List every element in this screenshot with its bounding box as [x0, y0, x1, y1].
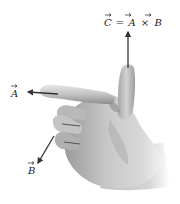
label-b-group: B: [27, 162, 35, 177]
label-b: B: [27, 165, 35, 176]
label-c-equation: C = A × B: [104, 14, 162, 29]
svg-text:C = A ×: C = A × B: [104, 17, 162, 28]
vector-b: [38, 136, 54, 163]
label-a-group: A: [10, 85, 18, 100]
hand-illustration: [40, 64, 170, 190]
label-c: C: [104, 17, 112, 28]
right-hand-rule-diagram: C = A × B A B: [0, 0, 180, 204]
label-cross: ×: [141, 17, 149, 28]
label-equals: =: [116, 17, 124, 28]
label-b-in-eq: B: [153, 17, 161, 28]
label-a-in-eq: A: [127, 17, 135, 28]
index-finger: [40, 85, 115, 104]
label-a: A: [10, 88, 18, 99]
thumb: [118, 64, 135, 119]
